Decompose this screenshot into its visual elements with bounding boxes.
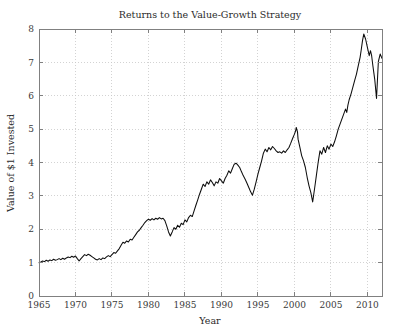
x-tick-label: 1985 (174, 300, 197, 310)
y-tick-label: 5 (28, 124, 34, 134)
y-tick-label: 7 (28, 58, 34, 68)
x-tick-label: 1980 (137, 300, 160, 310)
x-tick-label: 1975 (101, 300, 124, 310)
x-tick-label: 1995 (246, 300, 269, 310)
x-tick-label: 1970 (64, 300, 87, 310)
chart-title: Returns to the Value-Growth Strategy (119, 9, 302, 20)
figure-background (0, 0, 397, 329)
y-tick-label: 1 (28, 258, 34, 268)
chart-figure: 0123456781965197019751980198519901995200… (0, 0, 397, 329)
y-tick-label: 8 (28, 24, 34, 34)
chart-canvas: 0123456781965197019751980198519901995200… (0, 0, 397, 329)
x-tick-label: 2005 (319, 300, 342, 310)
x-tick-label: 2000 (283, 300, 306, 310)
y-tick-label: 4 (28, 158, 34, 168)
y-axis-title: Value of $1 Invested (5, 114, 16, 213)
x-tick-label: 2010 (356, 300, 379, 310)
x-tick-label: 1990 (210, 300, 233, 310)
y-tick-label: 6 (28, 91, 34, 101)
x-tick-label: 1965 (28, 300, 51, 310)
y-tick-label: 2 (28, 224, 34, 234)
y-tick-label: 3 (28, 191, 34, 201)
x-axis-title: Year (198, 315, 221, 326)
